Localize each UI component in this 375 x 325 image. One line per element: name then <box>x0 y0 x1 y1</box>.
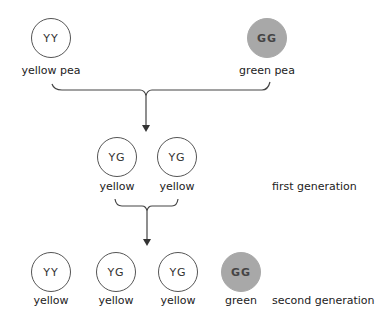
genotype: YY <box>43 32 58 45</box>
second-gen-label-2: yellow <box>98 294 133 307</box>
genotype: YG <box>107 266 124 279</box>
genotype: GG <box>231 266 251 279</box>
first-gen-label-2: yellow <box>159 180 194 193</box>
genotype: YG <box>168 151 185 164</box>
first-gen-pea-1: YG <box>97 137 137 177</box>
parent-label-yellow: yellow pea <box>21 64 80 77</box>
genotype: YG <box>108 151 125 164</box>
second-gen-pea-1: YY <box>31 252 71 292</box>
second-gen-label-4: green <box>225 294 257 307</box>
first-generation-label: first generation <box>272 180 357 193</box>
first-gen-label-1: yellow <box>99 180 134 193</box>
second-gen-pea-3: YG <box>158 252 198 292</box>
genotype: GG <box>257 32 277 45</box>
parent-pea-green: GG <box>247 18 287 58</box>
second-generation-label: second generation <box>272 294 375 307</box>
second-gen-pea-4: GG <box>221 252 261 292</box>
first-gen-pea-2: YG <box>157 137 197 177</box>
second-gen-label-3: yellow <box>160 294 195 307</box>
second-gen-label-1: yellow <box>33 294 68 307</box>
second-gen-pea-2: YG <box>96 252 136 292</box>
parent-label-green: green pea <box>239 64 295 77</box>
genotype: YY <box>43 266 58 279</box>
parent-pea-yellow: YY <box>31 18 71 58</box>
genotype: YG <box>169 266 186 279</box>
